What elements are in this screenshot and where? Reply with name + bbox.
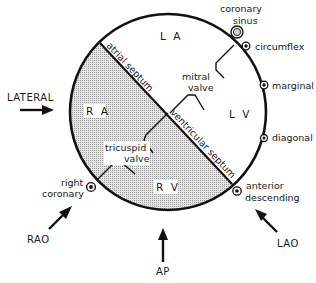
mitral-valve-label-line1: mitral (182, 71, 210, 82)
rao-arrow (49, 206, 72, 229)
circumflex-marker (242, 42, 250, 50)
mitral-valve-leaflet-upper (216, 45, 234, 78)
tricuspid-valve-label-line2: valve (124, 153, 150, 164)
coronary-sinus-label-line1: coronary (220, 3, 262, 14)
lao-arrow (255, 209, 277, 232)
tricuspid-valve-label-line1: tricuspid (105, 142, 146, 153)
ap-view-label: AP (156, 266, 170, 277)
right-ventricle-label: R V (156, 181, 180, 193)
coronary-sinus-inner-icon (233, 28, 240, 35)
right-coronary-label-line2: coronary (42, 188, 84, 199)
heart-cross-section-diagram: atrial septum ventricular septum L A L V… (0, 0, 316, 283)
mitral-valve-label-line2: valve (188, 82, 214, 93)
ap-arrow (158, 228, 168, 262)
anterior-descending-label-line2: descending (245, 192, 300, 203)
rao-view-label: RAO (27, 234, 50, 245)
right-atrium-label: R A (86, 105, 110, 117)
anterior-descending-label-line1: anterior (246, 180, 284, 191)
left-ventricle-label: L V (229, 108, 251, 120)
marginal-label: marginal (272, 80, 314, 91)
circumflex-label: circumflex (255, 41, 305, 52)
left-atrium-label: L A (160, 30, 182, 42)
right-coronary-marker (87, 183, 96, 192)
diagonal-marker (261, 135, 268, 142)
marginal-marker (260, 81, 268, 89)
lateral-view-label: LATERAL (7, 92, 54, 103)
coronary-sinus-label-line2: sinus (233, 15, 258, 26)
diagonal-label: diagonal (272, 132, 313, 143)
right-coronary-label-line1: right (61, 177, 84, 188)
lao-view-label: LAO (277, 238, 299, 249)
anterior-descending-marker (233, 187, 241, 195)
lateral-arrow (20, 105, 54, 115)
